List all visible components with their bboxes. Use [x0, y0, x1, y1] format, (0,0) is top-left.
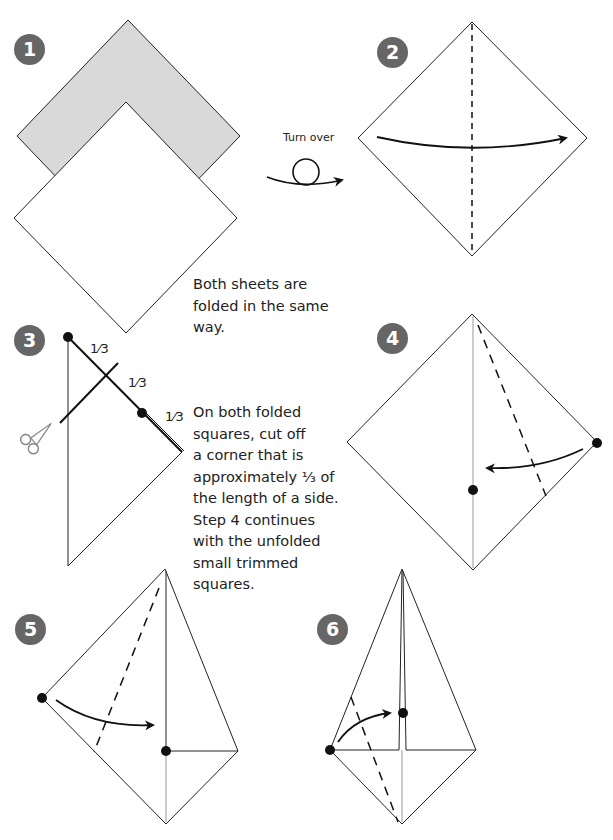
- step-5-badge: 5: [15, 614, 46, 645]
- step-1-badge: 1: [14, 34, 45, 65]
- fraction-label-3: 1⁄3: [165, 409, 184, 424]
- step5-diagram: [37, 569, 238, 824]
- turn-over-icon: [267, 159, 342, 185]
- step1-caption: Both sheets are folded in the same way.: [193, 274, 329, 339]
- fraction-label-1: 1⁄3: [90, 341, 109, 356]
- caption-line: On both folded: [193, 402, 339, 424]
- step-3-badge: 3: [14, 325, 45, 356]
- caption-line: Step 4 continues: [193, 510, 339, 532]
- caption-line: Both sheets are: [193, 274, 329, 296]
- caption-line: folded in the same: [193, 296, 329, 318]
- caption-line: approximately ⅓ of: [193, 467, 339, 489]
- caption-line: way.: [193, 317, 329, 339]
- caption-line: squares, cut off: [193, 424, 339, 446]
- caption-line: squares.: [193, 574, 339, 596]
- step3-caption: On both folded squares, cut off a corner…: [193, 402, 339, 596]
- fraction-label-2: 1⁄3: [128, 375, 147, 390]
- step-4-badge: 4: [377, 323, 408, 354]
- step3-diagram: [60, 332, 184, 566]
- step-6-badge: 6: [317, 614, 348, 645]
- scissors-icon: [19, 416, 60, 455]
- caption-line: with the unfolded: [193, 531, 339, 553]
- caption-line: the length of a side.: [193, 488, 339, 510]
- step-2-badge: 2: [377, 37, 408, 68]
- caption-line: a corner that is: [193, 445, 339, 467]
- step6-diagram: [325, 569, 476, 824]
- turn-over-label: Turn over: [283, 131, 334, 144]
- caption-line: small trimmed: [193, 553, 339, 575]
